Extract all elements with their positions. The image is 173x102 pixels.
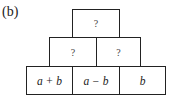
- pyramid-bottom-right-cell: b: [119, 66, 166, 95]
- pyramid-top-cell: ?: [72, 9, 120, 38]
- figure-label: (b): [2, 4, 18, 20]
- pyramid-bottom-middle-cell: a − b: [72, 66, 120, 95]
- pyramid-middle-left-cell: ?: [49, 37, 97, 67]
- pyramid-bottom-left-cell: a + b: [26, 66, 73, 95]
- pyramid-middle-right-cell: ?: [96, 37, 141, 67]
